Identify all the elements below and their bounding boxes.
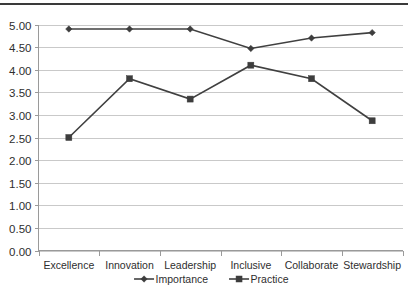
y-axis-label-2.00: 2.00: [9, 155, 31, 167]
datapoint-practice-leadership: [187, 96, 193, 102]
y-axis-label-4.50: 4.50: [9, 42, 31, 54]
datapoint-practice-inclusive: [248, 62, 254, 68]
y-axis-tick-labels-group: 5.004.504.003.503.002.502.001.501.000.50…: [9, 20, 31, 258]
x-axis-category-excellence: Excellence: [43, 259, 94, 271]
gridlines-group: [39, 26, 403, 252]
x-axis-category-collaborate: Collaborate: [285, 259, 339, 271]
series-line-importance: [69, 29, 372, 48]
x-axis-category-innovation: Innovation: [105, 259, 154, 271]
datapoint-practice-innovation: [127, 76, 133, 82]
series-lines-group: [69, 29, 372, 137]
y-axis-label-1.00: 1.00: [9, 200, 31, 212]
chart-container: 5.004.504.003.503.002.502.001.501.000.50…: [0, 0, 408, 291]
datapoint-practice-excellence: [66, 135, 72, 141]
x-axis-category-leadership: Leadership: [164, 259, 216, 271]
datapoint-importance-stewardship: [369, 29, 375, 35]
datapoint-importance-leadership: [187, 26, 193, 32]
x-axis-category-labels-group: ExcellenceInnovationLeadershipInclusiveC…: [43, 259, 401, 271]
y-axis-label-0.50: 0.50: [9, 223, 31, 235]
axis-lines-group: [39, 25, 403, 251]
y-axis-label-1.50: 1.50: [9, 178, 31, 190]
datapoint-importance-innovation: [126, 26, 132, 32]
datapoint-practice-stewardship: [369, 118, 375, 124]
chart-legend: ImportancePractice: [134, 273, 289, 285]
datapoint-importance-excellence: [66, 26, 72, 32]
legend-marker-practice: [236, 276, 242, 282]
datapoint-importance-inclusive: [248, 45, 254, 51]
y-axis-label-4.00: 4.00: [9, 65, 31, 77]
legend-label-importance: Importance: [156, 273, 209, 285]
line-chart-svg: 5.004.504.003.503.002.502.001.501.000.50…: [0, 0, 408, 291]
y-axis-label-3.50: 3.50: [9, 87, 31, 99]
series-line-practice: [69, 65, 372, 137]
datapoint-practice-collaborate: [309, 76, 315, 82]
x-axis-category-inclusive: Inclusive: [230, 259, 271, 271]
datapoint-importance-collaborate: [308, 35, 314, 41]
y-tickmarks-group: [35, 26, 39, 252]
plot-area-wrapper: 5.004.504.003.503.002.502.001.501.000.50…: [0, 0, 408, 291]
y-axis-label-2.50: 2.50: [9, 133, 31, 145]
series-markers-group: [66, 26, 376, 141]
y-axis-label-5.00: 5.00: [9, 20, 31, 32]
x-axis-category-stewardship: Stewardship: [343, 259, 401, 271]
legend-marker-importance: [141, 276, 147, 282]
y-axis-label-0.00: 0.00: [9, 246, 31, 258]
legend-label-practice: Practice: [251, 273, 289, 285]
y-axis-label-3.00: 3.00: [9, 110, 31, 122]
